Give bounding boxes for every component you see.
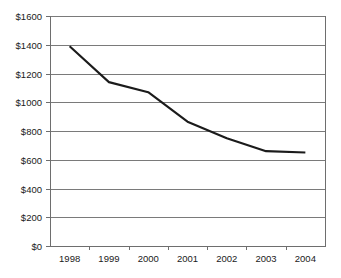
- y-tick-label: $800: [21, 126, 42, 137]
- x-tick-label: 2000: [138, 253, 159, 264]
- y-tick-label: $1200: [16, 69, 42, 80]
- x-tick-label: 2004: [295, 253, 316, 264]
- x-tick-label: 1998: [59, 253, 80, 264]
- y-tick-label: $200: [21, 212, 42, 223]
- y-tick-label: $0: [31, 241, 42, 252]
- x-tick-label: 2001: [177, 253, 198, 264]
- y-tick-label: $1000: [16, 97, 42, 108]
- x-tick-label: 2002: [216, 253, 237, 264]
- x-tick-label: 2003: [256, 253, 277, 264]
- y-tick-label: $400: [21, 184, 42, 195]
- chart-background: [0, 0, 341, 278]
- line-chart: $0$200$400$600$800$1000$1200$1400$1600 1…: [0, 0, 341, 278]
- y-tick-label: $1400: [16, 40, 42, 51]
- chart-canvas: $0$200$400$600$800$1000$1200$1400$1600 1…: [0, 0, 341, 278]
- y-tick-label: $1600: [16, 11, 42, 22]
- x-tick-label: 1999: [98, 253, 119, 264]
- y-tick-label: $600: [21, 155, 42, 166]
